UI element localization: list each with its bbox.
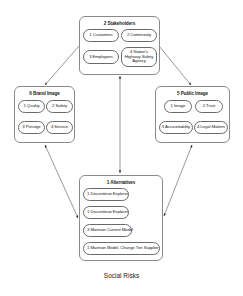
edge-stakeholders-public-image (159, 46, 191, 85)
stakeholder-customers: 1 Customers (83, 29, 119, 42)
stakeholders-box: 2 Stakeholders 1 Customers 2 Community 3… (79, 16, 160, 75)
public-image-trust: 2 Trust (195, 100, 223, 113)
brand-image-box: 6 Brand Image 1 Quality 2 Safety 3 Prest… (14, 86, 75, 143)
alternatives-box: 1 Alternatives 1 Discontinue Explorer 1 … (79, 175, 163, 261)
alternative-discontinue-explorer-1: 1 Discontinue Explorer (83, 188, 129, 201)
public-image-image: 1 Image (164, 100, 192, 113)
brand-image-service: 4 Service (46, 121, 73, 134)
alternative-maintain-current-model: 3 Maintain Current Model (83, 224, 132, 237)
edge-stakeholders-brand-image (45, 46, 79, 85)
alternatives-title: 1 Alternatives (80, 180, 162, 185)
stakeholder-highway-safety-agency: 4 Nation's Highway Safety Agency (121, 47, 157, 67)
alternative-discontinue-explorer-2: 1 Discontinue Explorer (83, 206, 129, 219)
public-image-title: 5 Public Image (156, 91, 229, 96)
public-image-accountability: 3 Accountability (159, 121, 193, 134)
edge-public-image-alternatives (164, 145, 192, 216)
brand-image-safety: 2 Safety (46, 100, 73, 113)
diagram-caption: Social Risks (0, 272, 243, 279)
alternative-change-tire-supplier: 1 Maintain Model, Change Tire Supplier (83, 242, 160, 255)
public-image-box: 5 Public Image 1 Image 2 Trust 3 Account… (155, 86, 230, 143)
brand-image-title: 6 Brand Image (15, 91, 74, 96)
edge-brand-image-alternatives (45, 145, 78, 218)
stakeholder-employees: 3 Employees (83, 50, 119, 64)
brand-image-quality: 1 Quality (18, 100, 45, 113)
public-image-legal-matters: 4 Legal Matters (194, 121, 228, 134)
stakeholder-community: 2 Community (121, 29, 157, 42)
brand-image-prestige: 3 Prestige (18, 121, 45, 134)
stakeholders-title: 2 Stakeholders (80, 21, 159, 26)
